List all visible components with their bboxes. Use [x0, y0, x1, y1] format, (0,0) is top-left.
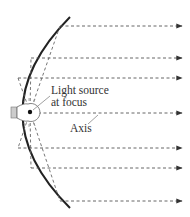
axis-label: Axis [70, 122, 92, 134]
light-bulb-icon [11, 98, 40, 127]
focus-point [28, 110, 32, 114]
source-leader-line [33, 96, 50, 110]
source-label-line2: at focus [51, 96, 88, 108]
parabolic-reflector-diagram: Light source at focus Axis [0, 0, 190, 217]
